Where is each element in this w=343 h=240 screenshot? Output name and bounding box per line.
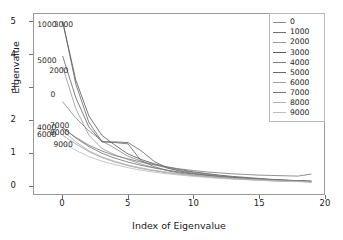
legend-item-label: 9000 [290, 109, 309, 117]
x-tick-label: 5 [113, 198, 143, 208]
legend-item[interactable]: 4000 [273, 57, 321, 67]
legend-swatch-icon [273, 52, 286, 53]
legend-item[interactable]: 9000 [273, 108, 321, 118]
eigenvalue-spectrum-chart: Eigenvalue Index of Eigenvalue 012345 05… [0, 0, 343, 240]
legend-item-label: 0 [290, 18, 295, 26]
x-tick-mark [62, 195, 63, 199]
legend-swatch-icon [273, 112, 286, 113]
legend[interactable]: 0100020003000400050006000700080009000 [269, 13, 325, 122]
y-tick-label: 1 [0, 147, 16, 157]
x-tick-mark [128, 195, 129, 199]
legend-item[interactable]: 2000 [273, 37, 321, 47]
legend-item[interactable]: 8000 [273, 98, 321, 108]
legend-item-label: 2000 [290, 38, 309, 46]
legend-item-label: 4000 [290, 59, 309, 67]
x-tick-label: 10 [178, 198, 208, 208]
legend-swatch-icon [273, 22, 286, 23]
legend-item[interactable]: 0 [273, 17, 321, 27]
x-tick-label: 0 [47, 198, 77, 208]
curve-annotation: 0 [50, 91, 55, 99]
curve-annotation: 9000 [53, 141, 72, 149]
legend-swatch-icon [273, 82, 286, 83]
legend-item-label: 8000 [290, 99, 309, 107]
curve-annotation: 2000 [49, 67, 68, 75]
x-tick-label: 20 [310, 198, 340, 208]
series-line [63, 143, 311, 182]
y-tick-label: 4 [0, 49, 16, 59]
x-tick-mark [325, 195, 326, 199]
legend-swatch-icon [273, 32, 286, 33]
legend-swatch-icon [273, 72, 286, 73]
x-tick-mark [259, 195, 260, 199]
legend-item-label: 5000 [290, 69, 309, 77]
legend-item-label: 7000 [290, 89, 309, 97]
x-axis-label: Index of Eigenvalue [33, 220, 325, 231]
legend-item[interactable]: 6000 [273, 78, 321, 88]
legend-item[interactable]: 7000 [273, 88, 321, 98]
legend-swatch-icon [273, 92, 286, 93]
curve-annotation: 3000 [54, 21, 73, 29]
curve-annotation: 5000 [37, 57, 56, 65]
legend-item[interactable]: 3000 [273, 47, 321, 57]
legend-item[interactable]: 5000 [273, 67, 321, 77]
x-tick-mark [193, 195, 194, 199]
y-tick-label: 3 [0, 82, 16, 92]
series-line [63, 135, 311, 182]
x-tick-label: 15 [244, 198, 274, 208]
legend-item[interactable]: 1000 [273, 27, 321, 37]
legend-item-label: 1000 [290, 28, 309, 36]
legend-swatch-icon [273, 42, 286, 43]
legend-item-label: 3000 [290, 49, 309, 57]
legend-swatch-icon [273, 102, 286, 103]
curve-annotation: 6000 [37, 131, 56, 139]
y-tick-label: 2 [0, 114, 16, 124]
legend-swatch-icon [273, 62, 286, 63]
legend-item-label: 6000 [290, 79, 309, 87]
y-tick-label: 0 [0, 180, 16, 190]
y-tick-label: 5 [0, 16, 16, 26]
